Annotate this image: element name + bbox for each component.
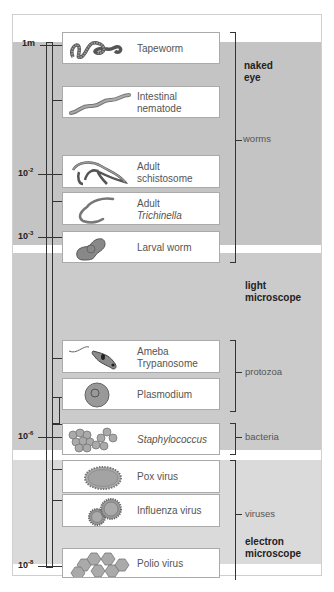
scale-tick	[38, 437, 62, 438]
organism-label: Intestinalnematode	[137, 91, 181, 115]
organism-polio-virus: Polio virus	[62, 548, 220, 578]
scale-label-1e-8: 10-8	[18, 559, 33, 570]
organism-staphylococcus: Staphylococcus	[62, 423, 220, 455]
organism-label: Polio virus	[137, 558, 183, 570]
bacteria-bracket-tick	[236, 437, 242, 438]
scale-tick	[38, 237, 62, 238]
influenza-virus-icon	[67, 497, 131, 527]
staphylococcus-icon	[67, 426, 131, 454]
schistosome-icon	[67, 158, 131, 188]
worms-bracket-tick	[236, 140, 242, 141]
connector-tick	[53, 201, 62, 202]
organism-label: Influenza virus	[137, 505, 201, 517]
organism-influenza-virus: Influenza virus	[62, 494, 220, 527]
organism-tapeworm: Tapeworm	[62, 32, 220, 64]
organism-adult-trichinella: AdultTrichinella	[62, 192, 220, 225]
organism-label: Plasmodium	[137, 389, 192, 401]
organism-pox-virus: Pox virus	[62, 460, 220, 493]
larval-worm-icon	[67, 234, 131, 262]
protozoa-bracket	[230, 340, 236, 412]
group-label-protozoa: protozoa	[245, 366, 282, 377]
organism-ameba-trypanosome: AmebaTrypanosome	[62, 340, 220, 373]
organism-label: Staphylococcus	[137, 434, 207, 446]
connector-tick	[53, 424, 62, 425]
viruses-bracket	[230, 460, 236, 580]
connector-tick	[53, 500, 62, 501]
polio-virus-icon	[67, 551, 135, 577]
plasmodium-icon	[67, 381, 131, 409]
organism-label: AdultTrichinella	[137, 198, 182, 222]
viruses-bracket-tick	[236, 514, 242, 515]
organism-label: Tapeworm	[137, 43, 183, 55]
connector-tick	[53, 469, 62, 470]
scale-label-1e-3: 10-3	[18, 230, 33, 241]
connector-tick	[53, 100, 62, 101]
organism-plasmodium: Plasmodium	[62, 378, 220, 410]
range-label-light-microscope: lightmicroscope	[245, 280, 301, 304]
worms-bracket	[230, 32, 236, 263]
scale-tick	[38, 174, 62, 175]
scale-label-1e-2: 10-2	[18, 167, 33, 178]
organism-larval-worm: Larval worm	[62, 231, 220, 263]
range-label-electron-microscope: electronmicroscope	[245, 536, 301, 560]
organism-label: AmebaTrypanosome	[137, 346, 198, 370]
group-label-bacteria: bacteria	[245, 431, 279, 442]
scale-label-1m: 1m	[22, 38, 35, 48]
pox-virus-icon	[67, 463, 131, 493]
organism-label: Pox virus	[137, 471, 178, 483]
scale-tick	[38, 566, 62, 567]
group-label-viruses: viruses	[245, 508, 275, 519]
organism-intestinal-nematode: Intestinalnematode	[62, 86, 220, 118]
connector-bracket	[53, 397, 60, 424]
trypanosome-icon	[67, 343, 131, 373]
protozoa-bracket-tick	[236, 372, 242, 373]
nematode-icon	[67, 89, 131, 117]
group-label-worms: worms	[243, 133, 271, 144]
scale-label-1e-6: 10-6	[18, 430, 33, 441]
trichinella-icon	[67, 195, 131, 225]
organism-adult-schistosome: Adultschistosome	[62, 155, 220, 188]
scale-tick	[40, 45, 62, 46]
connector-tick	[53, 358, 62, 359]
bacteria-bracket	[230, 423, 236, 455]
organism-label: Larval worm	[137, 242, 191, 254]
organism-label: Adultschistosome	[137, 161, 193, 185]
scale-bar-inner-line	[52, 42, 53, 568]
range-label-naked-eye: nakedeye	[244, 60, 273, 84]
tapeworm-icon	[67, 35, 127, 63]
